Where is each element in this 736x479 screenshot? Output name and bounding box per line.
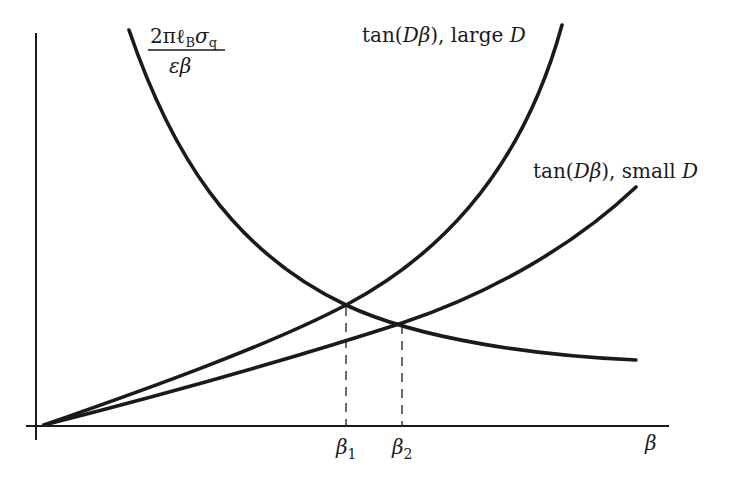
tan-small-d-curve: [44, 187, 636, 425]
x-axis-label: β: [644, 431, 657, 455]
tan-small-d-label: tan(Dβ), small D: [533, 159, 698, 183]
diagram-canvas: 2πℓBσq εβ tan(Dβ), large D tan(Dβ), smal…: [0, 0, 736, 479]
svg-text:εβ: εβ: [169, 54, 191, 78]
svg-text:2πℓBσq: 2πℓBσq: [150, 24, 217, 50]
hyperbola-curve: [129, 30, 636, 360]
tan-large-d-curve: [44, 25, 562, 425]
tan-large-d-label: tan(Dβ), large D: [362, 23, 526, 47]
beta2-label: β2: [391, 435, 412, 462]
hyperbola-label: 2πℓBσq εβ: [148, 24, 225, 78]
beta1-label: β1: [335, 435, 356, 462]
